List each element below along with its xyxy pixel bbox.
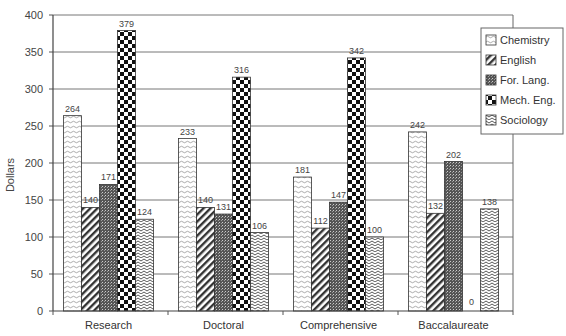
bar-research-mech-eng	[118, 31, 136, 311]
bar-research-sociology	[136, 219, 154, 311]
data-label: 379	[119, 19, 134, 29]
y-tick-label: 400	[25, 9, 43, 21]
data-label: 202	[446, 150, 461, 160]
data-label: 316	[234, 65, 249, 75]
data-label: 181	[295, 165, 310, 175]
bars-group: 2641401713791242331401313161061811121473…	[64, 19, 499, 311]
y-tick-label: 50	[31, 268, 43, 280]
bar-doctoral-mech-eng	[233, 77, 251, 311]
x-category-label: Comprehensive	[300, 319, 377, 331]
y-tick-label: 150	[25, 194, 43, 206]
legend-swatch	[486, 35, 496, 45]
legend-swatch	[486, 115, 496, 125]
bar-doctoral-for-lang	[215, 214, 233, 311]
legend-label: For. Lang.	[500, 74, 550, 86]
x-category-label: Research	[85, 319, 132, 331]
data-label: 233	[180, 127, 195, 137]
bar-comprehensive-chemistry	[294, 177, 312, 311]
bar-comprehensive-sociology	[366, 237, 384, 311]
data-label: 140	[83, 195, 98, 205]
data-label: 112	[313, 216, 327, 226]
bar-baccalaureate-sociology	[481, 209, 499, 311]
data-label: 0	[469, 297, 474, 307]
data-label: 140	[198, 195, 213, 205]
data-label: 342	[349, 46, 364, 56]
data-label: 131	[216, 202, 231, 212]
bar-research-for-lang	[100, 184, 118, 311]
y-tick-label: 0	[37, 305, 43, 317]
legend-label: Chemistry	[500, 34, 550, 46]
bar-doctoral-english	[197, 207, 215, 311]
bar-research-chemistry	[64, 116, 82, 311]
y-tick-label: 100	[25, 231, 43, 243]
data-label: 138	[482, 197, 497, 207]
legend-label: English	[500, 54, 536, 66]
legend-swatch	[486, 55, 496, 65]
data-label: 124	[137, 207, 152, 217]
bar-doctoral-sociology	[251, 233, 269, 311]
y-tick-label: 250	[25, 120, 43, 132]
x-category-label: Baccalaureate	[418, 319, 488, 331]
data-label: 147	[331, 190, 346, 200]
bar-doctoral-chemistry	[179, 139, 197, 311]
data-label: 106	[252, 221, 267, 231]
bar-baccalaureate-chemistry	[409, 132, 427, 311]
x-category-label: Doctoral	[203, 319, 244, 331]
y-axis-title: Dollars	[4, 157, 16, 192]
x-axis: ResearchDoctoralComprehensiveBaccalaurea…	[53, 311, 513, 331]
data-label: 242	[410, 120, 425, 130]
legend-swatch	[486, 95, 496, 105]
data-label: 132	[428, 201, 443, 211]
legend-swatch	[486, 75, 496, 85]
data-label: 264	[65, 104, 80, 114]
legend: ChemistryEnglishFor. Lang.Mech. Eng.Soci…	[481, 28, 563, 134]
bar-chart: 050100150200250300350400 264140171379124…	[0, 0, 566, 336]
bar-comprehensive-mech-eng	[348, 58, 366, 311]
bar-research-english	[82, 207, 100, 311]
data-label: 171	[101, 172, 116, 182]
legend-label: Mech. Eng.	[500, 94, 556, 106]
bar-baccalaureate-for-lang	[445, 162, 463, 311]
bar-comprehensive-for-lang	[330, 202, 348, 311]
bar-baccalaureate-english	[427, 213, 445, 311]
data-label: 100	[367, 225, 382, 235]
legend-label: Sociology	[500, 114, 548, 126]
y-tick-label: 350	[25, 46, 43, 58]
bar-comprehensive-english	[312, 228, 330, 311]
y-tick-label: 200	[25, 157, 43, 169]
y-tick-label: 300	[25, 83, 43, 95]
